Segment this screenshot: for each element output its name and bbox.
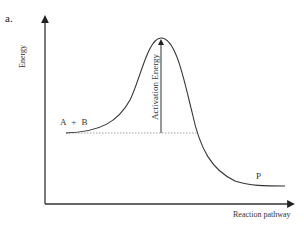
product-label: P (256, 171, 261, 181)
energy-curve (66, 38, 285, 186)
activation-energy-label: Activation Energy (150, 54, 160, 120)
y-axis-label: Energy (18, 45, 27, 68)
energy-diagram: a. Energy A + B P Reaction pathway Activ… (0, 0, 304, 228)
x-axis-label: Reaction pathway (233, 210, 291, 219)
panel-label: a. (5, 12, 13, 24)
reactants-label: A + B (60, 117, 88, 127)
